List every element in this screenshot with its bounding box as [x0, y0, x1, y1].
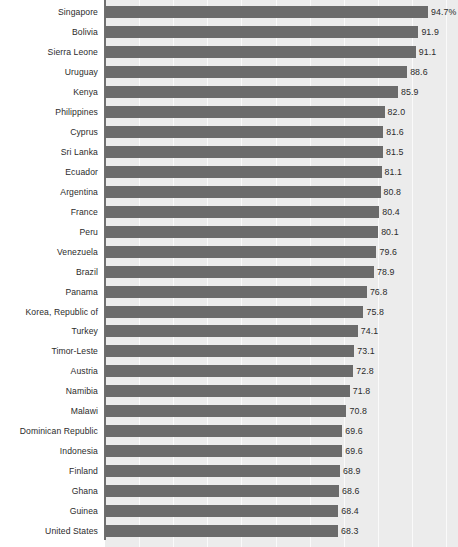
bar[interactable] — [105, 425, 342, 437]
category-label: Guinea — [70, 506, 98, 516]
bar-row[interactable]: Indonesia69.6 — [0, 441, 458, 462]
bar-row[interactable]: Ghana68.6 — [0, 481, 458, 502]
bar-value-label: 91.9 — [421, 27, 439, 37]
bar-row[interactable]: Sri Lanka81.5 — [0, 142, 458, 163]
bar-row[interactable]: Namibia71.8 — [0, 381, 458, 402]
category-label: Finland — [69, 466, 98, 476]
category-label: Kenya — [73, 87, 98, 97]
bar-value-label: 88.6 — [410, 67, 428, 77]
bar-value-label: 79.6 — [379, 247, 397, 257]
bar-row[interactable]: France80.4 — [0, 202, 458, 223]
bar-row[interactable]: Austria72.8 — [0, 361, 458, 382]
bar-row[interactable]: Turkey74.1 — [0, 321, 458, 342]
bar-row[interactable]: Sierra Leone91.1 — [0, 42, 458, 63]
bar[interactable] — [105, 226, 378, 238]
bar-row[interactable]: Singapore94.7% — [0, 2, 458, 23]
bar[interactable] — [105, 206, 379, 218]
category-label: Sri Lanka — [61, 147, 98, 157]
bar-row[interactable]: Kenya85.9 — [0, 82, 458, 103]
bar-value-label: 81.6 — [386, 127, 404, 137]
bar-chart: Singapore94.7%Bolivia91.9Sierra Leone91.… — [0, 0, 458, 547]
category-label: Namibia — [66, 386, 98, 396]
category-label: Cyprus — [70, 127, 98, 137]
category-label: Argentina — [60, 187, 98, 197]
category-label: Malawi — [71, 406, 98, 416]
category-label: Bolivia — [72, 27, 98, 37]
category-label: Panama — [65, 287, 98, 297]
bar-value-label: 75.8 — [366, 307, 384, 317]
bar-row[interactable]: Malawi70.8 — [0, 401, 458, 422]
bar[interactable] — [105, 286, 367, 298]
category-label: Uruguay — [65, 67, 98, 77]
category-label: France — [71, 207, 98, 217]
bar[interactable] — [105, 266, 374, 278]
category-label: Dominican Republic — [20, 426, 98, 436]
bar-value-label: 68.6 — [342, 486, 360, 496]
bar-value-label: 68.4 — [341, 506, 359, 516]
bar-value-label: 80.1 — [381, 227, 399, 237]
bar-row[interactable]: Korea, Republic of75.8 — [0, 301, 458, 322]
category-label: Philippines — [55, 107, 98, 117]
bar-value-label: 72.8 — [356, 366, 374, 376]
bar-row[interactable]: Uruguay88.6 — [0, 62, 458, 83]
bar-value-label: 73.1 — [357, 346, 375, 356]
bar-rows: Singapore94.7%Bolivia91.9Sierra Leone91.… — [0, 0, 458, 547]
bar-value-label: 76.8 — [370, 287, 388, 297]
bar-value-label: 70.8 — [349, 406, 367, 416]
bar[interactable] — [105, 365, 353, 377]
bar[interactable] — [105, 505, 338, 517]
bar[interactable] — [105, 86, 398, 98]
bar-row[interactable]: Dominican Republic69.6 — [0, 421, 458, 442]
category-label: United States — [45, 526, 98, 536]
bar-row[interactable]: Finland68.9 — [0, 461, 458, 482]
bar[interactable] — [105, 345, 354, 357]
bar[interactable] — [105, 465, 340, 477]
bar-value-label: 85.9 — [401, 87, 419, 97]
bar-row[interactable]: Brazil78.9 — [0, 261, 458, 282]
bar[interactable] — [105, 385, 350, 397]
bar[interactable] — [105, 186, 381, 198]
category-label: Singapore — [58, 7, 98, 17]
category-label: Sierra Leone — [48, 47, 98, 57]
bar[interactable] — [105, 66, 407, 78]
bar-row[interactable]: Bolivia91.9 — [0, 22, 458, 43]
bar-row[interactable]: Venezuela79.6 — [0, 241, 458, 262]
category-label: Brazil — [76, 267, 98, 277]
bar-value-label: 91.1 — [419, 47, 437, 57]
bar[interactable] — [105, 485, 339, 497]
bar[interactable] — [105, 26, 418, 38]
category-label: Timor-Leste — [51, 346, 98, 356]
bar-value-label: 81.1 — [385, 167, 403, 177]
bar-row[interactable]: United States68.3 — [0, 521, 458, 542]
bar[interactable] — [105, 306, 363, 318]
category-label: Venezuela — [57, 247, 98, 257]
bar-row[interactable]: Ecuador81.1 — [0, 162, 458, 183]
category-label: Ghana — [72, 486, 98, 496]
bar[interactable] — [105, 126, 383, 138]
bar-row[interactable]: Argentina80.8 — [0, 182, 458, 203]
category-label: Peru — [79, 227, 98, 237]
bar[interactable] — [105, 445, 342, 457]
bar-row[interactable]: Guinea68.4 — [0, 501, 458, 522]
bar[interactable] — [105, 325, 358, 337]
category-label: Indonesia — [60, 446, 98, 456]
bar-row[interactable]: Cyprus81.6 — [0, 122, 458, 143]
bar-value-label: 81.5 — [386, 147, 404, 157]
bar-row[interactable]: Peru80.1 — [0, 221, 458, 242]
bar-row[interactable]: Panama76.8 — [0, 281, 458, 302]
bar[interactable] — [105, 525, 338, 537]
bar[interactable] — [105, 106, 385, 118]
bar-row[interactable]: Timor-Leste73.1 — [0, 341, 458, 362]
bar[interactable] — [105, 146, 383, 158]
bar[interactable] — [105, 405, 346, 417]
bar[interactable] — [105, 246, 376, 258]
bar-value-label: 71.8 — [353, 386, 371, 396]
bar-row[interactable]: Philippines82.0 — [0, 102, 458, 123]
bar-value-label: 69.6 — [345, 426, 363, 436]
bar[interactable] — [105, 46, 416, 58]
category-label: Turkey — [71, 326, 98, 336]
bar[interactable] — [105, 6, 428, 18]
bar-value-label: 68.3 — [341, 526, 359, 536]
category-label: Korea, Republic of — [25, 307, 98, 317]
bar[interactable] — [105, 166, 382, 178]
